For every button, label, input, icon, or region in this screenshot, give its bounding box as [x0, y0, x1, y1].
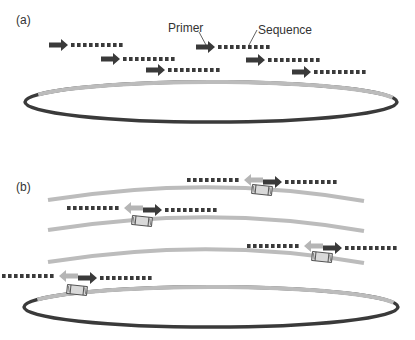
reverse-primer-arrow-icon — [304, 240, 323, 252]
barcode-capsule-icon — [67, 284, 88, 295]
read-3 — [146, 64, 220, 76]
sequence-label: Sequence — [258, 23, 312, 37]
barcode-capsule-icon — [312, 251, 333, 262]
sequence-dots — [218, 45, 270, 49]
reverse-primer-arrow-icon — [124, 202, 143, 214]
forward-sequence-dots — [345, 246, 397, 250]
forward-sequence-dots — [165, 208, 217, 212]
primer-arrow-icon — [49, 39, 68, 51]
reverse-primer-arrow-icon — [59, 270, 78, 282]
sequence-dots — [268, 58, 320, 62]
primer-sequencing-diagram — [0, 0, 415, 340]
amplicon-4 — [2, 270, 152, 296]
forward-primer-arrow-icon — [323, 242, 342, 254]
primer-arrow-icon — [196, 41, 215, 53]
panel-a-label: (a) — [16, 13, 31, 27]
panel-a — [25, 30, 397, 122]
primer-arrow-icon — [146, 64, 165, 76]
dna-strand-2 — [48, 217, 364, 231]
sequence-dots — [71, 43, 123, 47]
forward-sequence-dots — [100, 276, 152, 280]
forward-primer-arrow-icon — [143, 204, 162, 216]
read-6 — [292, 66, 366, 78]
panel-b — [2, 174, 398, 327]
dna-strand-1 — [48, 187, 364, 201]
read-4 — [196, 41, 270, 53]
primer-arrow-icon — [246, 54, 265, 66]
read-1 — [49, 39, 123, 51]
reverse-sequence-dots — [2, 274, 54, 278]
read-2 — [101, 53, 175, 65]
reverse-sequence-dots — [247, 244, 299, 248]
read-5 — [246, 54, 320, 66]
plasmid-a-light-arc — [38, 82, 392, 98]
sequence-dots — [314, 70, 366, 74]
reverse-sequence-dots — [187, 178, 239, 182]
reverse-sequence-dots — [67, 206, 119, 210]
sequence-dots — [168, 68, 220, 72]
plasmid-b-light-arc — [37, 287, 393, 303]
primer-label: Primer — [168, 21, 203, 35]
forward-sequence-dots — [285, 180, 337, 184]
barcode-capsule-icon — [252, 184, 273, 195]
panel-b-label: (b) — [16, 180, 31, 194]
primer-arrow-icon — [101, 53, 120, 65]
primer-arrow-icon — [292, 66, 311, 78]
forward-primer-arrow-icon — [78, 272, 97, 284]
sequence-dots — [123, 57, 175, 61]
sequence-leader-line — [249, 30, 257, 45]
barcode-capsule-icon — [132, 215, 153, 226]
